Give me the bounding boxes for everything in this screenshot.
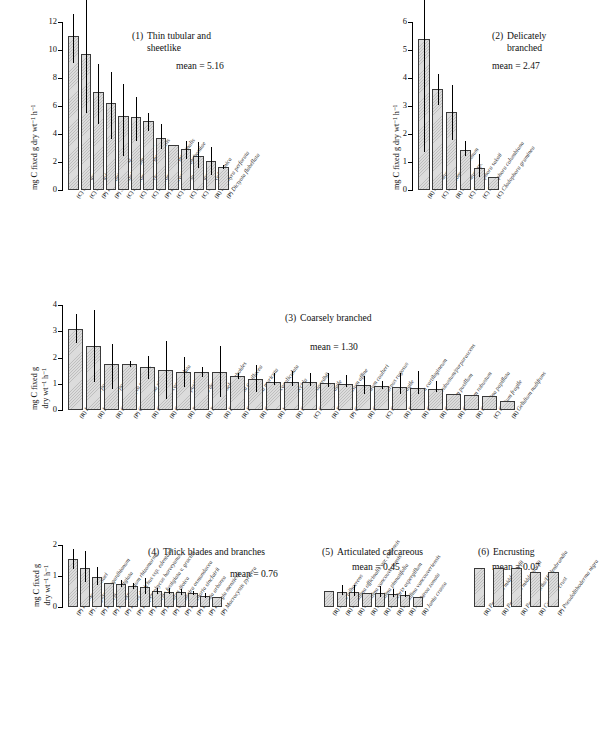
bar bbox=[493, 568, 504, 607]
bar bbox=[530, 572, 541, 607]
panel-title-6: (6)Encrusting bbox=[478, 546, 535, 558]
bar bbox=[511, 568, 522, 607]
bar bbox=[548, 572, 559, 607]
panel-number-6: (6) bbox=[478, 546, 493, 558]
panel-title-line1-6: Encrusting bbox=[493, 546, 535, 557]
bar bbox=[474, 568, 485, 607]
species-name: Pseudolithoderma nigra bbox=[560, 558, 598, 609]
